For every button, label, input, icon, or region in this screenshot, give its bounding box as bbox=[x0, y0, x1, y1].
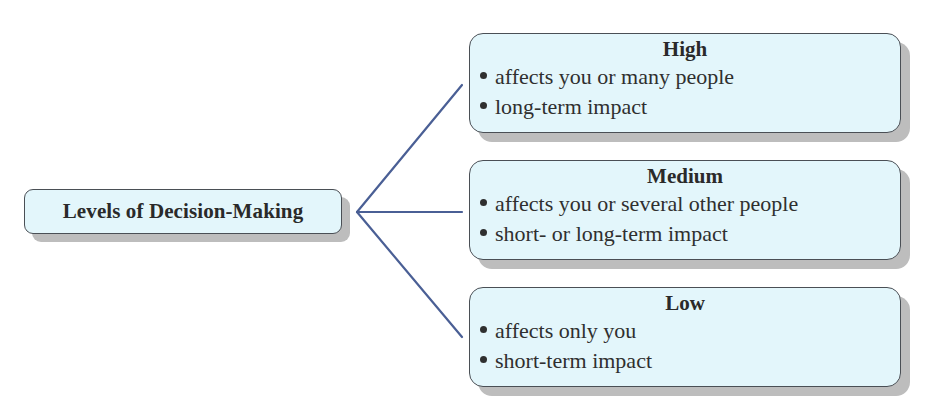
level-title-low: Low bbox=[480, 291, 890, 316]
bullet-item: affects you or many people bbox=[480, 62, 900, 92]
bullet-item: short-term impact bbox=[480, 346, 900, 376]
bullet-text: affects you or many people bbox=[495, 62, 734, 92]
level-node-medium: Medium affects you or several other peop… bbox=[469, 160, 901, 260]
bullet-icon bbox=[480, 229, 487, 236]
bullet-item: affects you or several other people bbox=[480, 189, 900, 219]
bullet-icon bbox=[480, 72, 487, 79]
connector-to-low bbox=[357, 212, 462, 337]
bullet-item: short- or long-term impact bbox=[480, 219, 900, 249]
bullet-icon bbox=[480, 356, 487, 363]
level-node-high: High affects you or many people long-ter… bbox=[469, 33, 901, 133]
bullet-icon bbox=[480, 199, 487, 206]
bullet-text: long-term impact bbox=[495, 92, 647, 122]
root-node-title: Levels of Decision-Making bbox=[63, 199, 303, 224]
bullet-icon bbox=[480, 326, 487, 333]
bullet-text: affects you or several other people bbox=[495, 189, 798, 219]
level-title-medium: Medium bbox=[480, 164, 890, 189]
level-title-high: High bbox=[480, 37, 890, 62]
connector-to-high bbox=[357, 85, 462, 212]
bullet-text: affects only you bbox=[495, 316, 636, 346]
root-node: Levels of Decision-Making bbox=[24, 189, 342, 234]
bullet-icon bbox=[480, 102, 487, 109]
level-node-low: Low affects only you short-term impact bbox=[469, 287, 901, 387]
bullet-text: short-term impact bbox=[495, 346, 652, 376]
bullet-item: affects only you bbox=[480, 316, 900, 346]
bullet-item: long-term impact bbox=[480, 92, 900, 122]
bullet-text: short- or long-term impact bbox=[495, 219, 728, 249]
